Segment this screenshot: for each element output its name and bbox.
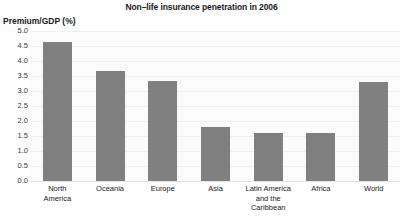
bar-slot <box>189 31 242 181</box>
bar[interactable] <box>43 42 72 182</box>
y-axis-tick-label: 4.5 <box>0 42 28 50</box>
bar-slot <box>136 31 189 181</box>
plot-area <box>31 31 400 181</box>
y-axis-title: Premium/GDP (%) <box>3 16 76 26</box>
chart-title: Non–life insurance penetration in 2006 <box>0 2 403 12</box>
gridline <box>31 181 400 182</box>
x-axis-tick-label: NorthAmerica <box>31 184 84 218</box>
bar[interactable] <box>148 81 177 182</box>
bar-slot <box>295 31 348 181</box>
x-axis-tick-label-line2: America <box>32 194 83 204</box>
x-axis-tick-label-line1: Oceania <box>96 184 124 193</box>
y-axis-tick-label: 2.0 <box>0 117 28 125</box>
x-axis-tick-label-line1: Europe <box>151 184 175 193</box>
bar[interactable] <box>201 127 230 181</box>
y-axis-tick-label: 1.5 <box>0 132 28 140</box>
x-axis-tick-labels: NorthAmericaOceaniaEuropeAsiaLatin Ameri… <box>31 184 400 218</box>
y-axis-tick-label: 1.0 <box>0 147 28 155</box>
y-axis-tick-label: 4.0 <box>0 57 28 65</box>
y-axis-tick-label: 0.0 <box>0 177 28 185</box>
y-axis-tick-label: 3.5 <box>0 72 28 80</box>
x-axis-tick-label-line1: Asia <box>208 184 223 193</box>
bar[interactable] <box>306 133 335 181</box>
x-axis-tick-label: Oceania <box>84 184 137 218</box>
y-axis-tick-label: 5.0 <box>0 27 28 35</box>
y-axis-tick-label: 3.0 <box>0 87 28 95</box>
x-axis-tick-label-line2: and the Caribbean <box>243 194 294 213</box>
x-axis-tick-label: World <box>347 184 400 218</box>
y-axis-tick-label: 0.5 <box>0 162 28 170</box>
x-axis-tick-label: Asia <box>189 184 242 218</box>
bar-slot <box>242 31 295 181</box>
x-axis-tick-label: Europe <box>136 184 189 218</box>
bar-slot <box>31 31 84 181</box>
x-axis-tick-label-line1: Africa <box>311 184 330 193</box>
chart-figure: Non–life insurance penetration in 2006 P… <box>0 0 403 221</box>
bar-slot <box>84 31 137 181</box>
bar-series <box>31 31 400 181</box>
x-axis-tick-label: Latin Americaand the Caribbean <box>242 184 295 218</box>
x-axis-tick-label: Africa <box>295 184 348 218</box>
x-axis-tick-label-line1: World <box>364 184 383 193</box>
x-axis-tick-label-line1: North <box>48 184 66 193</box>
bar[interactable] <box>359 82 388 181</box>
bar[interactable] <box>254 133 283 181</box>
x-axis-tick-label-line1: Latin America <box>246 184 291 193</box>
y-axis-tick-label: 2.5 <box>0 102 28 110</box>
y-axis-tick-labels: 5.04.54.03.53.02.52.01.51.00.50.0 <box>0 31 28 181</box>
bar-slot <box>347 31 400 181</box>
bar[interactable] <box>96 71 125 181</box>
